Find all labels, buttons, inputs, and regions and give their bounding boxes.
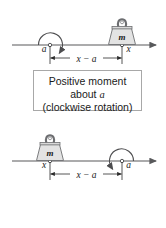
weight-cap — [112, 27, 132, 29]
caption-positive-moment: Positive moment about a (clockwise rotat… — [33, 70, 142, 111]
label-point-a: a — [42, 44, 47, 54]
positive-moment-diagram: a x m x − a — [0, 0, 166, 70]
caption-about-text: about — [70, 88, 99, 100]
label-point-x: x — [125, 44, 131, 54]
caption-line-2: about a — [34, 88, 141, 102]
label-point-x: x — [41, 160, 47, 170]
caption-line-1: Positive moment — [34, 75, 141, 88]
caption-line-3: (clockwise rotation) — [34, 101, 141, 114]
label-point-a: a — [126, 160, 131, 170]
panel-positive-moment: a x m x − a Positive moment about a (clo… — [0, 0, 166, 114]
label-dimension: x − a — [75, 170, 96, 180]
label-mass-m: m — [46, 148, 53, 158]
weight-ring-hole — [121, 21, 124, 24]
label-mass-m: m — [118, 32, 125, 42]
panel-negative-moment: x a m x − a Negative moment about a (cou… — [0, 114, 166, 228]
weight-ring-hole — [49, 137, 52, 140]
negative-moment-diagram: x a m x − a — [0, 114, 166, 186]
caption-about-var: a — [99, 89, 104, 100]
label-dimension: x − a — [75, 54, 96, 64]
moment-convention-figure: a x m x − a Positive moment about a (clo… — [0, 0, 166, 228]
weight-cap — [40, 143, 60, 145]
